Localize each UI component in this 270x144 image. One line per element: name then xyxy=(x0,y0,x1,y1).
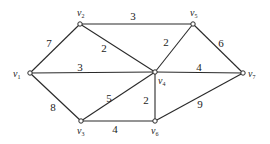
vertex-v1 xyxy=(28,71,32,75)
vertex-label-v6: v6 xyxy=(151,125,158,137)
edge-v1-v3 xyxy=(30,73,81,121)
edge-weight-v6-v7: 9 xyxy=(197,98,203,110)
edge-weight-v5-v4: 2 xyxy=(163,36,169,48)
vertex-v4 xyxy=(153,70,157,74)
edge-v1-v4 xyxy=(30,72,155,73)
vertex-label-v3: v3 xyxy=(77,125,84,137)
vertex-label-v5: v5 xyxy=(190,7,197,19)
vertex-v7 xyxy=(241,71,245,75)
edges xyxy=(30,24,243,121)
edge-weight-v1-v3: 8 xyxy=(50,101,56,113)
edge-v2-v4 xyxy=(80,24,155,72)
edge-v5-v4 xyxy=(155,24,193,72)
edge-v1-v2 xyxy=(30,24,80,73)
vertex-label-v2: v2 xyxy=(77,7,84,19)
vertex-label-v4: v4 xyxy=(158,75,165,87)
edge-weight-v1-v2: 7 xyxy=(46,37,52,49)
vertex-v6 xyxy=(153,119,157,123)
vertex-v2 xyxy=(78,22,82,26)
vertex-label-v7: v7 xyxy=(248,68,255,80)
edge-weight-v5-v7: 6 xyxy=(218,37,224,49)
edge-v6-v7 xyxy=(155,73,243,121)
edge-weight-v3-v4: 5 xyxy=(106,92,112,104)
edge-weight-v1-v4: 3 xyxy=(77,61,83,73)
vertex-v3 xyxy=(79,119,83,123)
vertex-label-v1: v1 xyxy=(13,68,20,80)
edge-weight-v3-v6: 4 xyxy=(112,123,118,135)
vertex-v5 xyxy=(191,22,195,26)
edge-weight-v2-v4: 2 xyxy=(101,42,107,54)
weighted-graph: 738322645249 v1v2v3v4v5v6v7 xyxy=(0,0,270,144)
edge-weight-v2-v5: 3 xyxy=(130,10,136,22)
edge-weight-v4-v7: 4 xyxy=(196,61,202,73)
edge-weight-v4-v6: 2 xyxy=(143,94,149,106)
